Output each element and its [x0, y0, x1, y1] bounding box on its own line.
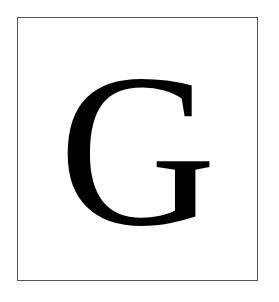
large-letter-glyph: G: [18, 42, 257, 260]
letter-card: G: [17, 17, 258, 281]
